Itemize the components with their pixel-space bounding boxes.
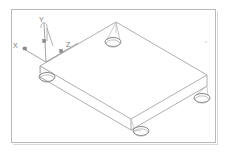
x-axis-marker: [24, 47, 27, 50]
cad-wireframe-drawing: X Y Z: [0, 0, 227, 156]
x-axis-label: X: [13, 42, 18, 49]
top-face-edge-right-bottom: [131, 75, 207, 119]
z-axis-label: Z: [66, 41, 71, 48]
leader-hole-bottom-a: [131, 119, 134, 128]
hole-bottom-inner: [134, 129, 147, 136]
leader-hole-top-b: [116, 22, 120, 40]
z-axis-marker: [60, 50, 63, 53]
stray-speck: [205, 41, 207, 43]
y-axis-marker: [43, 40, 46, 43]
plate-top-face: [40, 22, 207, 119]
bottom-face-edge-left-bottom: [40, 77, 131, 130]
top-face-edge-top-right: [116, 22, 207, 75]
drawing-viewport: X Y Z: [0, 0, 227, 156]
bottom-face-edge-bottom-right: [131, 86, 207, 130]
plate-holes: [39, 38, 210, 137]
top-face-edge-left-top: [40, 22, 116, 66]
plate-bottom-face: [40, 77, 207, 130]
hole-right-inner: [195, 96, 208, 103]
y-axis-cursor-tail-icon: [47, 28, 53, 46]
hole-top-inner: [106, 40, 119, 47]
coordinate-axis-triad: X Y Z: [13, 16, 78, 62]
y-axis-label: Y: [39, 16, 44, 23]
plate-thickness-edges: [40, 66, 207, 130]
